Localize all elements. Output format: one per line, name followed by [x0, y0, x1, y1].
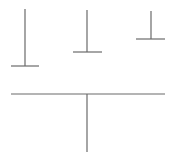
diagram-canvas — [0, 0, 173, 163]
t-bottom — [11, 94, 165, 152]
inverted-t-right — [136, 11, 165, 39]
inverted-t-left — [11, 9, 39, 66]
inverted-t-middle — [73, 10, 102, 52]
shapes-group — [11, 9, 165, 152]
